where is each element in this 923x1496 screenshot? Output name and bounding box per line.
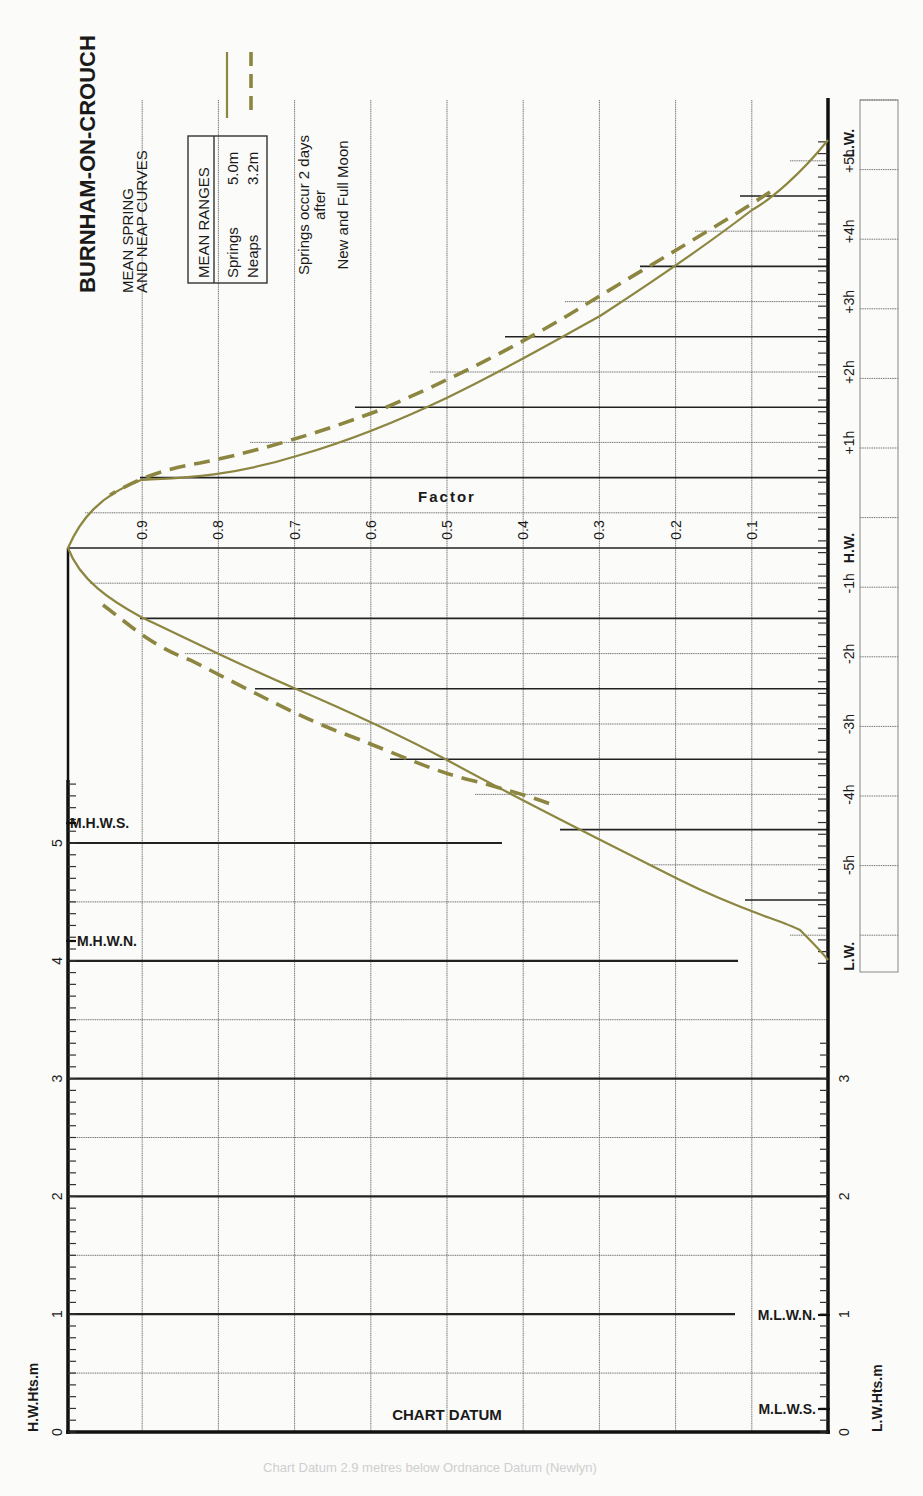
time-label-hw: H.W. [841, 533, 857, 563]
neaps-curve-rising [103, 605, 556, 806]
time-label-p4: +4h [841, 220, 857, 244]
mean-ranges-header: MEAN RANGES [195, 167, 212, 278]
factor-axis-label: Factor [418, 488, 476, 505]
springs-label: Springs [224, 227, 241, 278]
mhws-label: M.H.W.S. [70, 815, 129, 831]
factor-tick-label: 0.8 [210, 520, 226, 540]
mlwn-label: M.L.W.N. [758, 1307, 816, 1323]
hw-heights-axis-title: H.W.Hts.m [25, 1363, 41, 1432]
lw-height-tick-label: 3 [836, 1074, 852, 1082]
factor-tick-labels: 0.90.80.70.60.50.40.30.20.1 [134, 520, 760, 540]
time-label-p5: +5h [841, 149, 857, 173]
time-label-m5: -5h [841, 855, 857, 875]
time-label-p2: +2h [841, 360, 857, 384]
time-labels: L.W.+5h+4h+3h+2h+1hH.W.-1h-2h-3h-4h-5hL.… [841, 129, 857, 971]
ghost-caption: Chart Datum 2.9 metres below Ordnance Da… [263, 1460, 597, 1475]
hw-height-tick-label: 4 [49, 957, 65, 965]
note-line1: Springs occur 2 days [295, 135, 312, 275]
subtitle-line2: AND NEAP CURVES [133, 150, 150, 293]
neaps-label: Neaps [244, 235, 261, 278]
hw-height-tick-label: 2 [49, 1192, 65, 1200]
time-label-m1: -1h [841, 573, 857, 593]
mlws-label: M.L.W.S. [758, 1401, 816, 1417]
height-gridlines [68, 843, 828, 1373]
factor-tick-label: 0.4 [515, 520, 531, 540]
note-line3: New and Full Moon [334, 140, 351, 269]
chart-title: BURNHAM-ON-CROUCH [75, 35, 100, 293]
hw-height-tick-label: 5 [49, 839, 65, 847]
time-gridlines [68, 161, 828, 935]
time-label-p1: +1h [841, 431, 857, 455]
factor-tick-label: 0.9 [134, 520, 150, 540]
factor-tick-label: 0.7 [287, 520, 303, 540]
time-label-m3: -3h [841, 714, 857, 734]
hw-height-tick-label: 3 [49, 1074, 65, 1082]
time-label-m2: -2h [841, 644, 857, 664]
factor-tick-label: 0.2 [668, 520, 684, 540]
time-label-m4: -4h [841, 784, 857, 804]
hw-height-tick-label: 0 [49, 1428, 65, 1436]
lw-height-tick-label: 0 [836, 1428, 852, 1436]
time-label-p3: +3h [841, 290, 857, 314]
chart-datum-label: CHART DATUM [392, 1406, 502, 1423]
factor-tick-label: 0.6 [363, 520, 379, 540]
lw-height-tick-label: 1 [836, 1310, 852, 1318]
mhwn-label: M.H.W.N. [77, 933, 137, 949]
hw-height-tick-label: 1 [49, 1310, 65, 1318]
tidal-curve-chart: Chart Datum 2.9 metres below Ordnance Da… [0, 0, 923, 1496]
axis-ticks [68, 142, 828, 1432]
lw-height-tick-label: 2 [836, 1192, 852, 1200]
factor-tick-label: 0.3 [591, 520, 607, 540]
time-label-lw_bottom: L.W. [841, 942, 857, 971]
springs-range-value: 5.0m [224, 152, 241, 185]
note-line2: after [311, 190, 328, 220]
lw-heights-axis-title: L.W.Hts.m [869, 1364, 885, 1432]
springs-curve [68, 140, 828, 960]
factor-tick-label: 0.1 [744, 520, 760, 540]
factor-tick-label: 0.5 [439, 520, 455, 540]
time-cell-column [860, 100, 898, 972]
neaps-range-value: 3.2m [244, 152, 261, 185]
factor-gridlines [142, 100, 752, 1432]
